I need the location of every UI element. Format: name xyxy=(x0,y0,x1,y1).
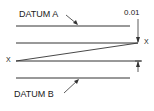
datum-a-arrowhead xyxy=(73,20,78,25)
datum-b-label: DATUM B xyxy=(14,90,54,99)
slanted-line xyxy=(16,43,138,61)
point-right-label: X xyxy=(144,38,149,45)
tolerance-bottom-arrow xyxy=(136,61,140,67)
datum-a-label: DATUM A xyxy=(19,10,58,19)
tolerance-top-arrow xyxy=(136,37,140,43)
point-left-label: X xyxy=(6,56,11,63)
tolerance-label: 0.01 xyxy=(124,9,140,17)
